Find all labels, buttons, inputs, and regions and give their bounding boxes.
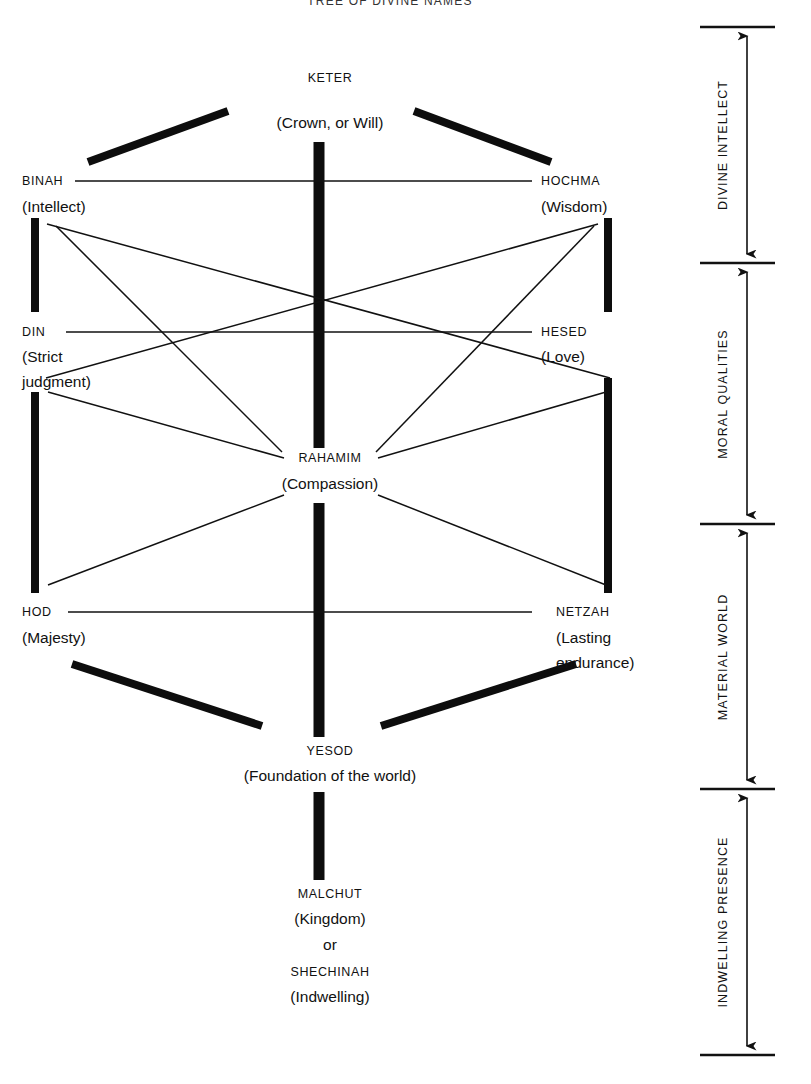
diagonal-hod-yesod [72, 664, 262, 726]
bracket-indwelling-presence-label: INDWELLING PRESENCE [716, 837, 730, 1008]
sefira-binah-gloss-0: (Intellect) [22, 198, 86, 215]
sefira-hesed: HESED (Love) [541, 325, 587, 365]
sefira-hod-name: HOD [22, 605, 52, 619]
sefira-malchut-gloss-0: (Kingdom) [294, 910, 366, 927]
sefira-rahamim-gloss-0: (Compassion) [282, 475, 378, 492]
sefira-yesod-gloss-0: (Foundation of the world) [244, 767, 416, 784]
sefira-hod: HOD (Majesty) [22, 605, 86, 646]
connector-rahamim-hod [48, 495, 284, 585]
bracket-moral-qualities: MORAL QUALITIES [716, 272, 747, 515]
diagram-title: TREE OF DIVINE NAMES [307, 0, 472, 8]
sefira-yesod-name: YESOD [307, 744, 354, 758]
bracket-material-world: MATERIAL WORLD [716, 533, 747, 780]
sefira-netzah-gloss-1: endurance) [556, 654, 634, 671]
bracket-divine-intellect-label: DIVINE INTELLECT [716, 80, 730, 210]
sefira-din: DIN (Strict judgment) [21, 325, 91, 390]
scale-brackets: DIVINE INTELLECT MORAL QUALITIES MATERIA… [700, 27, 775, 1055]
sefira-yesod: YESOD (Foundation of the world) [244, 744, 416, 784]
sefira-netzah: NETZAH (Lasting endurance) [556, 605, 634, 671]
sefira-keter-gloss-0: (Crown, or Will) [277, 114, 384, 131]
sefira-din-name: DIN [22, 325, 45, 339]
sefira-hesed-name: HESED [541, 325, 587, 339]
tree-of-life-diagram: TREE OF DIVINE NAMES [0, 0, 811, 1084]
sefira-rahamim-name: RAHAMIM [298, 451, 361, 465]
sefira-hochma: HOCHMA (Wisdom) [541, 174, 607, 215]
sefira-din-gloss-1: judgment) [21, 373, 91, 390]
connector-hesed-rahamim [378, 392, 606, 458]
bracket-material-world-label: MATERIAL WORLD [716, 594, 730, 721]
sefira-malchut-name: MALCHUT [298, 887, 363, 901]
sefira-din-gloss-0: (Strict [22, 348, 63, 365]
sefira-shechinah-name: SHECHINAH [290, 965, 369, 979]
sefira-keter-name: KETER [308, 71, 353, 85]
connector-rahamim-netzah [378, 495, 606, 585]
sefira-binah-name: BINAH [22, 174, 63, 188]
sefira-malchut: MALCHUT (Kingdom) or SHECHINAH (Indwelli… [290, 887, 369, 1005]
diagonal-keter-hochma [414, 111, 551, 162]
sefira-malchut-gloss-1: or [323, 936, 337, 953]
connector-hochma-rahamim [376, 226, 594, 452]
sefira-hod-gloss-0: (Majesty) [22, 629, 86, 646]
thin-connectors [46, 181, 610, 612]
sefira-netzah-gloss-0: (Lasting [556, 629, 611, 646]
sefira-hochma-name: HOCHMA [541, 174, 600, 188]
sefira-binah: BINAH (Intellect) [22, 174, 86, 215]
sefira-keter: KETER (Crown, or Will) [277, 71, 384, 131]
sefira-rahamim: RAHAMIM (Compassion) [282, 451, 378, 492]
sefira-hochma-gloss-0: (Wisdom) [541, 198, 607, 215]
bracket-divine-intellect: DIVINE INTELLECT [716, 36, 747, 254]
sefira-hesed-gloss-0: (Love) [541, 348, 585, 365]
diagonal-netzah-yesod [381, 664, 576, 726]
tree-diagram-canvas: TREE OF DIVINE NAMES [0, 0, 811, 1084]
sefira-netzah-name: NETZAH [556, 605, 610, 619]
diagonal-keter-binah [88, 111, 228, 162]
bracket-indwelling-presence: INDWELLING PRESENCE [716, 798, 747, 1046]
connector-din-rahamim [48, 392, 284, 458]
sefira-shechinah-gloss: (Indwelling) [290, 988, 369, 1005]
bracket-moral-qualities-label: MORAL QUALITIES [716, 329, 730, 458]
connector-binah-rahamim [56, 226, 282, 452]
